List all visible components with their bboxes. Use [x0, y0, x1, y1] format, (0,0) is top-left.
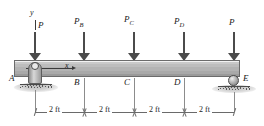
- pin-hinge-icon: [31, 62, 39, 70]
- load-arrow-e: [227, 32, 241, 60]
- roller-support-icon: [228, 75, 239, 86]
- load-arrow-a: [28, 32, 42, 60]
- beam-loading-diagram: y P PB PC PD P x A E B C D: [0, 0, 264, 126]
- dimension-label-bc: 2 ft: [97, 105, 112, 115]
- load-label-d: PD: [174, 17, 184, 28]
- load-label-a: P: [38, 21, 44, 30]
- load-arrow-c: [127, 32, 141, 60]
- y-axis-line: [35, 20, 36, 30]
- load-label-b: PB: [74, 17, 83, 28]
- point-label-a: A: [9, 74, 15, 83]
- dimension-label-cd: 2 ft: [147, 105, 162, 115]
- pin-ground-hatching-icon: [20, 84, 52, 88]
- load-arrow-d: [177, 32, 191, 60]
- load-label-c: PC: [124, 15, 134, 26]
- point-label-d: D: [174, 78, 181, 87]
- y-axis-label: y: [30, 9, 34, 17]
- dimension-tick-b: [81, 109, 88, 116]
- point-label-b: B: [74, 78, 80, 87]
- x-axis-label: x: [65, 62, 69, 70]
- load-arrow-b: [77, 32, 91, 60]
- dimension-label-ab: 2 ft: [47, 105, 62, 115]
- dimension-tick-d: [181, 109, 188, 116]
- dimension-tick-c: [131, 109, 138, 116]
- load-label-e: P: [229, 18, 235, 27]
- point-label-c: C: [124, 78, 130, 87]
- dimension-label-de: 2 ft: [197, 105, 212, 115]
- point-label-e: E: [243, 74, 249, 83]
- x-axis-arrowhead: [72, 66, 76, 70]
- roller-ground-hatching-icon: [218, 86, 250, 90]
